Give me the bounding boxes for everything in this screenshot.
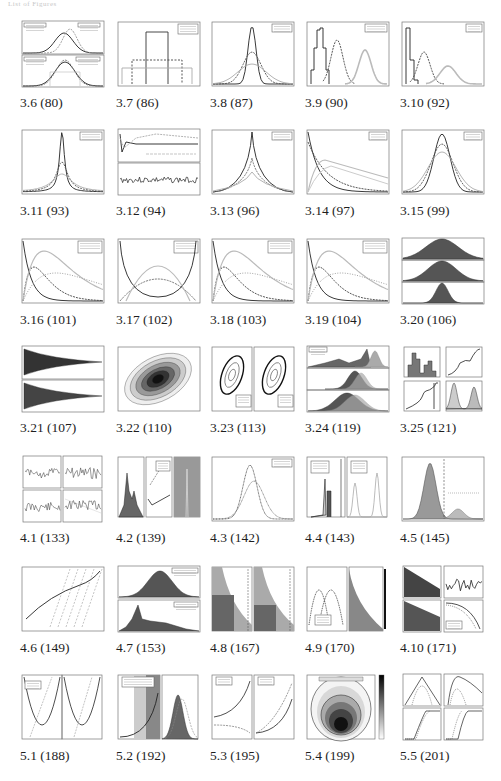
figure-thumbnail[interactable]: 3.20 (106)	[400, 237, 490, 337]
figure-thumbnail[interactable]: 4.5 (145)	[400, 455, 490, 555]
figure-caption: 3.12 (94)	[116, 203, 166, 219]
figure-plot-image	[116, 455, 202, 525]
figure-caption: 3.15 (99)	[400, 203, 450, 219]
figure-caption: 3.8 (87)	[210, 95, 253, 111]
figure-caption: 3.22 (110)	[116, 420, 172, 436]
figure-thumbnail[interactable]: 4.8 (167)	[210, 565, 300, 665]
figure-caption: 3.7 (86)	[116, 95, 159, 111]
figure-plot-image	[210, 20, 296, 90]
figure-thumbnail[interactable]: 3.7 (86)	[116, 20, 206, 120]
figure-plot-image	[400, 20, 486, 90]
figure-caption: 3.9 (90)	[305, 95, 348, 111]
figure-thumbnail[interactable]: 4.9 (170)	[305, 565, 395, 665]
figure-plot-image	[210, 673, 296, 743]
figure-caption: 5.3 (195)	[210, 748, 260, 764]
figure-caption: 3.19 (104)	[305, 312, 361, 328]
figure-plot-image	[305, 565, 391, 635]
figure-thumbnail[interactable]: 3.10 (92)	[400, 20, 490, 120]
figure-thumbnail[interactable]: 3.19 (104)	[305, 237, 395, 337]
figure-plot-image	[305, 237, 391, 307]
figure-plot-image	[20, 345, 106, 415]
figure-thumbnail[interactable]: 3.22 (110)	[116, 345, 206, 445]
figure-plot-image	[305, 345, 391, 415]
figure-plot-image	[116, 20, 202, 90]
figure-thumbnail[interactable]: 3.25 (121)	[400, 345, 490, 445]
figure-thumbnail[interactable]: 4.2 (139)	[116, 455, 206, 555]
figure-plot-image	[400, 673, 486, 743]
figure-plot-image	[20, 128, 106, 198]
figure-plot-image	[400, 565, 486, 635]
figure-thumbnail[interactable]: 3.14 (97)	[305, 128, 395, 228]
figure-thumbnail[interactable]: 3.23 (113)	[210, 345, 300, 445]
figure-thumbnail[interactable]: 3.6 (80)	[20, 20, 110, 120]
figure-thumbnail[interactable]: 3.11 (93)	[20, 128, 110, 228]
figure-plot-image	[20, 455, 106, 525]
figure-plot-image	[305, 455, 391, 525]
figure-thumbnail[interactable]: 3.21 (107)	[20, 345, 110, 445]
figure-plot-image	[305, 20, 391, 90]
figure-thumbnail[interactable]: 4.10 (171)	[400, 565, 490, 665]
page-header: List of Figures	[8, 0, 57, 8]
figure-thumbnail[interactable]: 4.6 (149)	[20, 565, 110, 665]
figure-plot-image	[20, 237, 106, 307]
figure-caption: 3.10 (92)	[400, 95, 450, 111]
figure-caption: 3.16 (101)	[20, 312, 76, 328]
figure-caption: 5.5 (201)	[400, 748, 450, 764]
figure-thumbnail[interactable]: 3.16 (101)	[20, 237, 110, 337]
figure-thumbnail[interactable]: 3.18 (103)	[210, 237, 300, 337]
figure-plot-image	[116, 128, 202, 198]
figure-caption: 4.1 (133)	[20, 530, 70, 546]
figure-caption: 3.25 (121)	[400, 420, 456, 436]
figure-plot-image	[116, 237, 202, 307]
figure-thumbnail[interactable]: 4.7 (153)	[116, 565, 206, 665]
figure-caption: 3.20 (106)	[400, 312, 456, 328]
figure-thumbnail[interactable]: 4.3 (142)	[210, 455, 300, 555]
figure-plot-image	[116, 345, 202, 415]
figure-plot-image	[400, 345, 486, 415]
figure-caption: 3.11 (93)	[20, 203, 69, 219]
figure-caption: 4.7 (153)	[116, 640, 166, 656]
figure-plot-image	[400, 128, 486, 198]
figure-plot-image	[116, 565, 202, 635]
figure-plot-image	[210, 455, 296, 525]
figure-thumbnail[interactable]: 3.12 (94)	[116, 128, 206, 228]
figure-caption: 4.3 (142)	[210, 530, 260, 546]
figure-plot-image	[305, 673, 391, 743]
figure-plot-image	[210, 237, 296, 307]
figure-caption: 4.5 (145)	[400, 530, 450, 546]
figure-caption: 5.4 (199)	[305, 748, 355, 764]
figure-plot-image	[305, 128, 391, 198]
figure-thumbnail[interactable]: 4.1 (133)	[20, 455, 110, 555]
figure-thumbnail[interactable]: 3.24 (119)	[305, 345, 395, 445]
figure-plot-image	[210, 128, 296, 198]
figure-thumbnail[interactable]: 3.15 (99)	[400, 128, 490, 228]
figure-caption: 3.21 (107)	[20, 420, 76, 436]
figure-caption: 4.9 (170)	[305, 640, 355, 656]
figure-thumbnail[interactable]: 5.2 (192)	[116, 673, 206, 773]
figure-thumbnail[interactable]: 5.1 (188)	[20, 673, 110, 773]
figure-plot-image	[20, 565, 106, 635]
figure-thumbnail[interactable]: 5.4 (199)	[305, 673, 395, 773]
figure-thumbnail[interactable]: 3.13 (96)	[210, 128, 300, 228]
figure-caption: 3.24 (119)	[305, 420, 361, 436]
figure-plot-image	[116, 673, 202, 743]
figure-caption: 4.4 (143)	[305, 530, 355, 546]
figure-thumbnail[interactable]: 3.9 (90)	[305, 20, 395, 120]
figure-plot-image	[210, 565, 296, 635]
figure-thumbnail[interactable]: 5.3 (195)	[210, 673, 300, 773]
figure-plot-image	[400, 237, 486, 307]
figure-caption: 3.6 (80)	[20, 95, 63, 111]
figure-caption: 3.14 (97)	[305, 203, 355, 219]
figure-caption: 4.8 (167)	[210, 640, 260, 656]
figure-caption: 3.17 (102)	[116, 312, 172, 328]
figure-caption: 5.2 (192)	[116, 748, 166, 764]
figure-caption: 4.10 (171)	[400, 640, 456, 656]
figure-plot-image	[210, 345, 296, 415]
figure-caption: 5.1 (188)	[20, 748, 70, 764]
figure-thumbnail[interactable]: 5.5 (201)	[400, 673, 490, 773]
figure-caption: 3.13 (96)	[210, 203, 260, 219]
figure-caption: 3.23 (113)	[210, 420, 266, 436]
figure-thumbnail[interactable]: 4.4 (143)	[305, 455, 395, 555]
figure-thumbnail[interactable]: 3.8 (87)	[210, 20, 300, 120]
figure-thumbnail[interactable]: 3.17 (102)	[116, 237, 206, 337]
